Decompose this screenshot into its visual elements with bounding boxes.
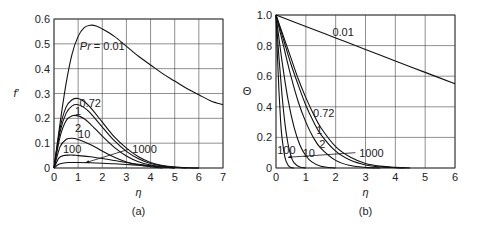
curve-label: 1000 — [359, 147, 383, 159]
y-tick-label: 0.2 — [257, 131, 272, 143]
x-tick-label: 0 — [273, 171, 279, 183]
plot-b: 012345600.20.40.60.81.0ηΘ(b)0.010.721210… — [243, 9, 458, 217]
y-axis-label: f′ — [13, 87, 19, 99]
x-tick-label: 7 — [220, 171, 226, 183]
y-axis-label: Θ — [243, 85, 252, 97]
y-tick-label: 0.6 — [35, 13, 50, 25]
y-tick-label: 0.4 — [257, 101, 272, 113]
x-tick-label: 4 — [148, 171, 154, 183]
subfigure-caption: (b) — [359, 205, 372, 217]
x-tick-label: 6 — [196, 171, 202, 183]
x-tick-label: 6 — [452, 171, 458, 183]
x-tick-label: 5 — [172, 171, 178, 183]
y-tick-label: 0.6 — [257, 70, 272, 82]
y-tick-label: 0.8 — [257, 40, 272, 52]
curve-label: 1000 — [132, 143, 156, 155]
y-tick-label: 0.4 — [35, 63, 50, 75]
x-tick-label: 1 — [303, 171, 309, 183]
figure: 0123456700.10.20.30.40.50.6ηf′(a)Pr = 0.… — [0, 0, 478, 225]
curve-label: 100 — [63, 143, 81, 155]
series-curve — [276, 15, 410, 168]
x-tick-label: 3 — [123, 171, 129, 183]
curve-label: 0.72 — [80, 97, 101, 109]
x-tick-label: 5 — [422, 171, 428, 183]
x-tick-label: 2 — [99, 171, 105, 183]
curve-label: 2 — [319, 138, 325, 150]
arrowhead-icon — [288, 155, 292, 158]
x-tick-label: 3 — [362, 171, 368, 183]
y-tick-label: 0 — [44, 162, 50, 174]
x-tick-label: 1 — [75, 171, 81, 183]
y-tick-label: 0 — [266, 162, 272, 174]
curve-label: 0.01 — [332, 26, 353, 38]
leader-line — [288, 153, 356, 158]
x-tick-label: 2 — [333, 171, 339, 183]
x-tick-label: 4 — [392, 171, 398, 183]
curve-label: 10 — [303, 147, 315, 159]
subfigure-caption: (a) — [132, 205, 145, 217]
y-tick-label: 1.0 — [257, 9, 272, 21]
x-axis-label: η — [135, 186, 141, 198]
curve-label: 1 — [75, 105, 81, 117]
curve-label: 10 — [78, 128, 90, 140]
y-tick-label: 0.1 — [35, 137, 50, 149]
plot-a: 0123456700.10.20.30.40.50.6ηf′(a)Pr = 0.… — [13, 13, 226, 217]
arrowhead-icon — [85, 160, 89, 163]
curve-label: 100 — [277, 144, 295, 156]
x-tick-label: 0 — [51, 171, 57, 183]
curve-label: 1 — [316, 124, 322, 136]
x-axis-label: η — [362, 186, 368, 198]
y-tick-label: 0.5 — [35, 38, 50, 50]
curve-label: 0.72 — [313, 107, 334, 119]
y-tick-label: 0.2 — [35, 112, 50, 124]
y-tick-label: 0.3 — [35, 88, 50, 100]
series-curve — [54, 105, 187, 168]
curve-label: Pr = 0.01 — [80, 40, 125, 52]
